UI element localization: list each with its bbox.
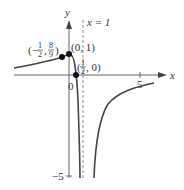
svg-text:2: 2	[38, 50, 42, 59]
asymptote-label: x = 1	[86, 16, 110, 28]
y-axis-arrow-icon	[66, 20, 72, 29]
point-neg-half	[59, 54, 65, 60]
svg-text:1: 1	[38, 41, 42, 50]
curve-right-branch	[94, 83, 154, 178]
x-axis-label: x	[169, 69, 175, 81]
svg-text:(−: (−	[28, 44, 38, 57]
point-label-x-intercept: ( 1 2 , 0)	[77, 58, 101, 76]
svg-text:): )	[55, 44, 59, 57]
svg-text:8: 8	[49, 41, 53, 50]
y-axis-label: y	[64, 6, 70, 18]
curve-left-branch	[14, 54, 80, 178]
x-axis-arrow-icon	[158, 72, 167, 78]
point-label-neg-half: (− 1 2 , 8 9 )	[28, 41, 59, 59]
point-label-y-intercept: (0, 1)	[71, 41, 95, 54]
y-tick-label: −5	[52, 170, 64, 182]
x-tick-label: 5	[137, 78, 143, 90]
origin-label: 0	[68, 80, 74, 92]
graph: x y 5 −5 0 x = 1 (− 1 2 , 8 9 ) (0, 1) (…	[0, 0, 184, 190]
svg-text:, 0): , 0)	[86, 61, 101, 74]
svg-text:1: 1	[81, 58, 85, 67]
svg-text:,: ,	[44, 44, 47, 56]
svg-text:9: 9	[49, 50, 53, 59]
svg-text:2: 2	[81, 67, 85, 76]
